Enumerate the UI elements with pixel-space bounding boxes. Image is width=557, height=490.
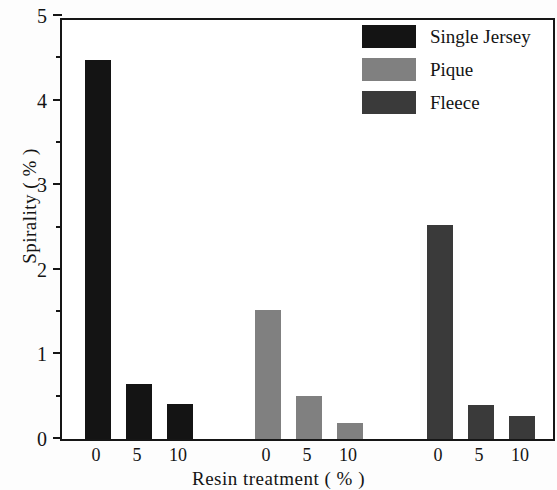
bar (509, 416, 535, 439)
y-axis-title: Spirality ( % ) (19, 56, 41, 356)
legend-item: Single Jersey (362, 20, 547, 53)
x-axis-tick-label: 0 (262, 446, 271, 464)
x-axis-tick-label: 5 (303, 446, 312, 464)
y-axis-minor-tick (56, 226, 62, 228)
legend: Single JerseyPiqueFleece (362, 20, 547, 119)
x-axis-tick-label: 5 (475, 446, 484, 464)
bar (468, 405, 494, 439)
y-axis-tick: 4 (53, 99, 62, 101)
legend-swatch (362, 25, 416, 48)
legend-item: Pique (362, 53, 547, 86)
y-axis-minor-tick (56, 141, 62, 143)
y-axis-minor-tick (56, 310, 62, 312)
legend-label: Single Jersey (430, 27, 531, 46)
bar (85, 60, 111, 439)
y-axis-tick: 1 (53, 352, 62, 354)
y-axis-tick-label: 0 (37, 429, 47, 449)
x-axis-tick-label: 0 (434, 446, 443, 464)
bar (296, 396, 322, 439)
legend-label: Pique (430, 60, 473, 79)
x-axis-tick-label: 10 (511, 446, 529, 464)
y-axis-tick: 2 (53, 268, 62, 270)
y-axis-tick: 5 (53, 14, 62, 16)
x-axis-tick-label: 5 (133, 446, 142, 464)
legend-swatch (362, 58, 416, 81)
y-axis-tick: 0 (53, 437, 62, 439)
x-axis-tick-label: 0 (92, 446, 101, 464)
y-axis-minor-tick (56, 395, 62, 397)
figure-canvas: 012345 Spirality ( % ) Resin treatment (… (0, 0, 557, 490)
bar (126, 384, 152, 439)
legend-label: Fleece (430, 93, 480, 112)
bar (167, 404, 193, 439)
bar (427, 225, 453, 439)
bar (337, 423, 363, 439)
legend-item: Fleece (362, 86, 547, 119)
bar (255, 310, 281, 439)
x-axis-tick-label: 10 (339, 446, 357, 464)
y-axis-minor-tick (56, 56, 62, 58)
x-axis-title: Resin treatment ( % ) (0, 468, 557, 490)
y-axis-tick-label: 5 (37, 6, 47, 26)
x-axis-tick-label: 10 (169, 446, 187, 464)
legend-swatch (362, 91, 416, 114)
y-axis-tick: 3 (53, 183, 62, 185)
